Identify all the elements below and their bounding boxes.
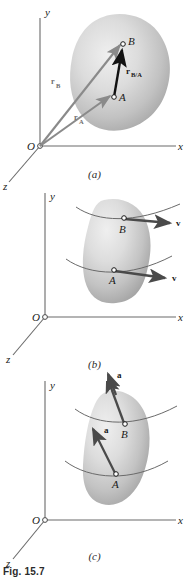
point-a-marker <box>112 268 117 273</box>
vector-a-a-label: a <box>104 425 109 435</box>
panel-c: y x z O B A a a <box>0 381 189 578</box>
x-axis-label: x <box>177 514 183 526</box>
panel-c-caption: (c) <box>0 550 189 562</box>
point-a-label: A <box>111 478 119 490</box>
svg-text:r: r <box>126 66 130 76</box>
y-axis-label: y <box>44 6 50 18</box>
vector-v-b-label: v <box>176 218 181 228</box>
origin-label: O <box>27 140 35 152</box>
point-b-marker <box>121 42 126 47</box>
svg-text:A: A <box>79 118 84 125</box>
point-a-label: A <box>118 91 126 103</box>
figure-15-7: y x z O A B r B r A r B/A (a) <box>0 0 189 578</box>
z-axis <box>13 317 45 355</box>
svg-text:r: r <box>51 77 55 86</box>
panel-a: y x z O A B r B r A r B/A <box>0 0 189 193</box>
svg-text:r: r <box>74 113 78 122</box>
panel-c-overflow-arrow: a <box>0 370 189 400</box>
origin-point <box>43 518 48 523</box>
y-axis-label: y <box>49 191 55 202</box>
vector-r-b-label: r B <box>51 77 61 89</box>
origin-label: O <box>32 311 40 323</box>
point-b-label: B <box>119 223 126 235</box>
point-b-label: B <box>128 35 135 47</box>
figure-number-caption: Fig. 15.7 <box>3 566 45 577</box>
vector-a-b-label-top: a <box>117 370 122 380</box>
svg-text:B: B <box>56 82 61 89</box>
point-a-label: A <box>108 274 116 286</box>
vector-v-a-label: v <box>172 273 177 283</box>
x-axis-label: x <box>177 140 183 152</box>
point-a-marker <box>114 472 119 477</box>
x-axis-label: x <box>177 311 183 323</box>
point-a-marker <box>112 95 117 100</box>
vector-a-b-extension <box>108 374 116 395</box>
point-b-marker <box>123 422 128 427</box>
panel-a-caption: (a) <box>0 168 189 180</box>
origin-label: O <box>32 514 40 526</box>
panel-b: y x z O B A v v <box>0 191 189 384</box>
point-b-label: B <box>121 428 128 440</box>
panel-b-caption: (b) <box>0 358 189 370</box>
point-b-marker <box>122 216 127 221</box>
svg-text:B/A: B/A <box>131 71 142 78</box>
origin-point <box>43 315 48 320</box>
